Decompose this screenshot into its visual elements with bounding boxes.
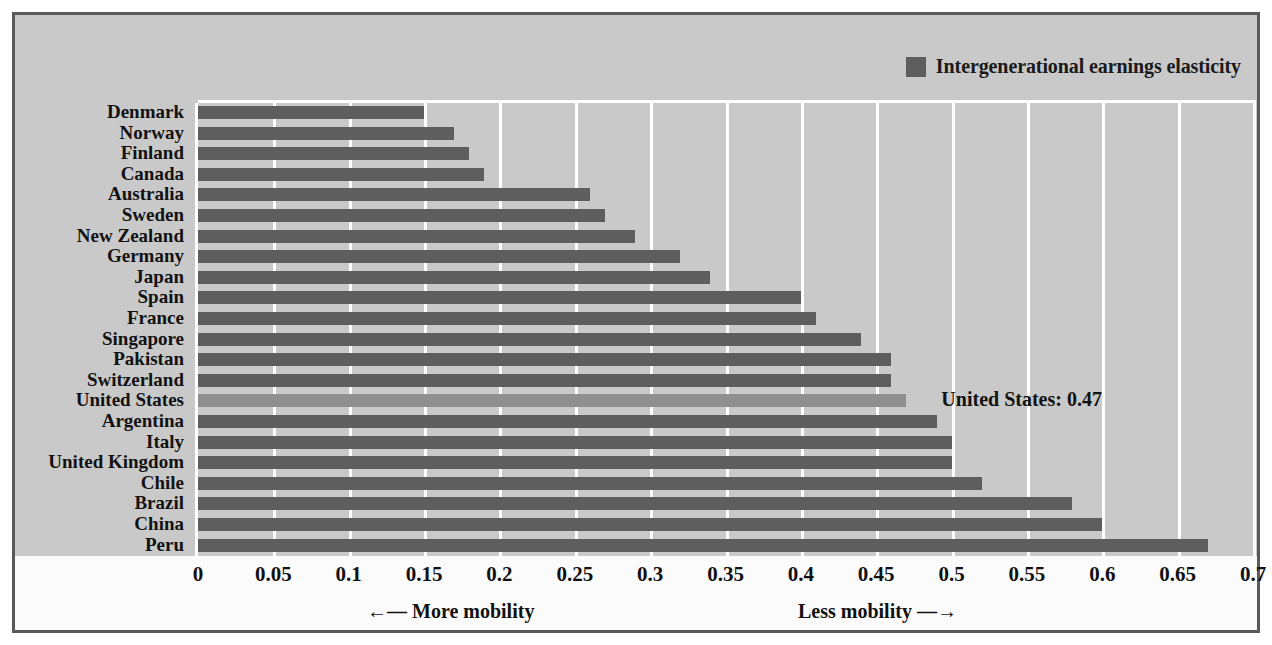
x-tick-label: 0.1: [336, 562, 362, 587]
bar-row: [198, 227, 1253, 248]
bar[interactable]: [198, 497, 1072, 510]
bar-row: [198, 433, 1253, 454]
bar-row: [198, 412, 1253, 433]
bar-row: [198, 103, 1253, 124]
x-tick-label: 0.7: [1240, 562, 1266, 587]
x-tick-label: 0.5: [938, 562, 964, 587]
bar-row: [198, 288, 1253, 309]
category-label: China: [134, 514, 184, 535]
category-label: Singapore: [102, 329, 184, 350]
category-label: Spain: [138, 287, 184, 308]
x-tick-label: 0.2: [486, 562, 512, 587]
category-label: United States: [76, 390, 184, 411]
us-annotation: United States: 0.47: [941, 388, 1102, 411]
category-label: Australia: [108, 184, 184, 205]
x-tick-label: 0.55: [1009, 562, 1046, 587]
category-label: Switzerland: [87, 370, 184, 391]
bar-row: [198, 536, 1253, 556]
legend: Intergenerational earnings elasticity: [906, 55, 1241, 78]
bar[interactable]: [198, 312, 816, 325]
bar[interactable]: [198, 477, 982, 490]
x-tick-label: 0.15: [406, 562, 443, 587]
x-axis: 00.050.10.150.20.250.30.350.40.450.50.55…: [15, 556, 1257, 630]
bar-row: [198, 453, 1253, 474]
bar[interactable]: [198, 539, 1208, 552]
category-label: Pakistan: [113, 349, 184, 370]
bar[interactable]: [198, 168, 484, 181]
bar[interactable]: [198, 436, 952, 449]
category-label: New Zealand: [77, 226, 184, 247]
bar-row: [198, 474, 1253, 495]
category-label: Canada: [121, 164, 184, 185]
bar[interactable]: [198, 147, 469, 160]
plot-panel: Intergenerational earnings elasticity De…: [15, 15, 1257, 556]
bar[interactable]: [198, 374, 891, 387]
x-tick-label: 0.65: [1159, 562, 1196, 587]
bar[interactable]: [198, 333, 861, 346]
bar[interactable]: [198, 291, 801, 304]
bar-row: [198, 144, 1253, 165]
category-label: Japan: [134, 267, 184, 288]
bar-row: [198, 350, 1253, 371]
x-tick-label: 0.25: [556, 562, 593, 587]
category-label: Germany: [107, 246, 184, 267]
category-label: United Kingdom: [48, 452, 184, 473]
x-tick-label: 0.35: [707, 562, 744, 587]
plot-area: [198, 103, 1253, 556]
category-label: Italy: [146, 432, 184, 453]
gridline: [1253, 103, 1256, 556]
x-tick-label: 0.3: [637, 562, 663, 587]
legend-label: Intergenerational earnings elasticity: [936, 55, 1241, 78]
bar-row: [198, 494, 1253, 515]
bar-row: [198, 268, 1253, 289]
bar[interactable]: [198, 106, 424, 119]
bar[interactable]: [198, 353, 891, 366]
category-label: Denmark: [107, 102, 184, 123]
bar[interactable]: [198, 271, 710, 284]
legend-swatch-icon: [906, 57, 926, 77]
x-tick-label: 0: [193, 562, 204, 587]
more-mobility-note: ←— More mobility: [367, 600, 534, 623]
bar[interactable]: [198, 250, 680, 263]
bar-row: [198, 515, 1253, 536]
bar[interactable]: [198, 415, 937, 428]
category-label: Norway: [120, 123, 184, 144]
x-tick-label: 0.05: [255, 562, 292, 587]
category-label: France: [127, 308, 184, 329]
x-tick-label: 0.45: [858, 562, 895, 587]
chart-figure: Intergenerational earnings elasticity De…: [12, 12, 1260, 633]
bar-row: [198, 165, 1253, 186]
bar[interactable]: [198, 456, 952, 469]
bar-row: [198, 206, 1253, 227]
bar[interactable]: [198, 518, 1102, 531]
category-label: Chile: [141, 473, 184, 494]
x-tick-label: 0.4: [788, 562, 814, 587]
bar-row: [198, 309, 1253, 330]
bar-row: [198, 185, 1253, 206]
bar[interactable]: [198, 188, 590, 201]
less-mobility-note: Less mobility —→: [798, 600, 957, 623]
category-label: Finland: [121, 143, 184, 164]
category-label: Peru: [145, 535, 184, 556]
category-label: Argentina: [102, 411, 184, 432]
bar-row: [198, 330, 1253, 351]
bar-row: [198, 247, 1253, 268]
bar[interactable]: [198, 394, 906, 407]
bar[interactable]: [198, 127, 454, 140]
category-label: Sweden: [122, 205, 184, 226]
category-label: Brazil: [134, 493, 184, 514]
bar-row: [198, 124, 1253, 145]
x-tick-label: 0.6: [1089, 562, 1115, 587]
bar[interactable]: [198, 230, 635, 243]
bar[interactable]: [198, 209, 605, 222]
